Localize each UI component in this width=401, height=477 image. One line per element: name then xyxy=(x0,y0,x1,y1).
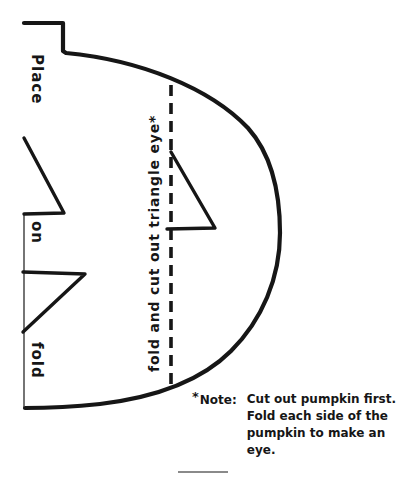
note-line: Cut out pumpkin first. xyxy=(247,391,396,408)
eye-triangle-dashed-fold xyxy=(167,152,215,229)
note-line: pumpkin to make an xyxy=(247,425,396,442)
note-prefix: *Note: xyxy=(192,391,237,409)
eye-triangle-bottom xyxy=(23,272,85,332)
note-line: eye. xyxy=(247,442,396,459)
eye-triangle-top xyxy=(24,138,64,214)
pumpkin-pattern-page: Place on fold fold and cut out triangle … xyxy=(0,0,401,477)
eye-fold-instruction-label: fold and cut out triangle eye* xyxy=(144,115,164,372)
fold-edge-word-fold: fold xyxy=(27,342,47,379)
asterisk-mark: * xyxy=(192,389,199,404)
fold-edge-word-on: on xyxy=(27,221,47,244)
note-prefix-word: Note: xyxy=(200,393,237,407)
note-line: Fold each side of the xyxy=(247,408,396,425)
fold-edge-word-place: Place xyxy=(27,54,47,104)
note-block: *Note: Cut out pumpkin first. Fold each … xyxy=(192,391,396,459)
note-text: Cut out pumpkin first. Fold each side of… xyxy=(247,391,396,459)
